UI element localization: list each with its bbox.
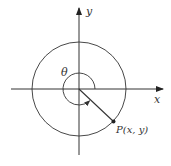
unit-circle-diagram: y x θ P(x, y)	[0, 0, 171, 166]
terminal-side	[79, 89, 114, 122]
x-axis-label: x	[154, 93, 161, 106]
point-p	[112, 120, 116, 124]
y-axis-label: y	[85, 5, 93, 18]
point-label: P(x, y)	[115, 124, 148, 135]
theta-label: θ	[61, 66, 68, 79]
